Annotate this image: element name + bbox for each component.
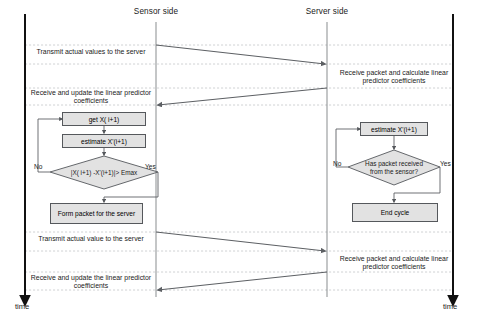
- right-time-axis-label: time: [443, 303, 457, 312]
- branch-label-packet-no: No: [333, 160, 341, 168]
- decision-threshold-check-label: |X( i+1) -X'(i+1)|> Emax: [58, 169, 150, 177]
- lifeline-title-server: Server side: [277, 7, 377, 17]
- node-estimate-x[interactable]: estimate X'(i+1): [62, 134, 146, 148]
- node-estimate-x-label: estimate X'(i+1): [63, 138, 145, 145]
- node-end-cycle[interactable]: End cycle: [352, 203, 438, 222]
- lifeline-title-sensor: Sensor side: [106, 7, 206, 17]
- message-label-4: Receive and update the linear predictor …: [28, 274, 154, 290]
- sequence-diagram: Sensor side Server side time time Transm…: [0, 0, 479, 332]
- node-get-x-label: get X( i+1): [63, 116, 145, 123]
- node-form-packet-label: Form packet for the server: [51, 210, 142, 217]
- message-arrow-3: [156, 232, 325, 251]
- message-label-2: Receive and update the linear predictor …: [28, 89, 154, 105]
- node-estimate-x-server[interactable]: estimate X'(i+1): [360, 122, 428, 136]
- sensor-flow-graphics: [38, 119, 158, 202]
- node-end-cycle-label: End cycle: [353, 209, 437, 216]
- message-arrows: [156, 45, 327, 290]
- message-label-3: Transmit actual value to the server: [30, 235, 152, 243]
- decision-packet-check-label: Has packet received from the sensor?: [350, 160, 438, 175]
- message-arrow-4: [158, 272, 327, 290]
- node-get-x[interactable]: get X( i+1): [62, 112, 146, 126]
- node-estimate-x-server-label: estimate X'(i+1): [361, 126, 427, 133]
- lifeline-verticals: [156, 22, 327, 297]
- branch-label-threshold-no: No: [34, 163, 42, 171]
- branch-label-packet-yes: Yes: [440, 160, 451, 168]
- message-arrow-1: [156, 45, 325, 64]
- activity-label-2: Receive packet and calculate linear pred…: [334, 255, 454, 271]
- message-label-1: Transmit actual values to the server: [30, 48, 152, 56]
- branch-label-threshold-yes: Yes: [145, 163, 156, 171]
- left-time-axis-label: time: [15, 303, 29, 312]
- node-form-packet[interactable]: Form packet for the server: [50, 203, 143, 224]
- message-arrow-2: [158, 88, 327, 105]
- activity-label-1: Receive packet and calculate linear pred…: [334, 69, 454, 85]
